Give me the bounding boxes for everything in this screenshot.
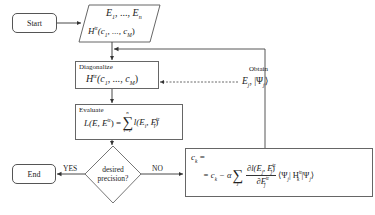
evaluate-node: Evaluate L(E, Etr) = n∑i=1 l(Ei, Etri) <box>75 104 183 140</box>
obtain-eigenpairs: Ej, |Ψj⟩ <box>242 75 268 88</box>
decision-node: desired precision? <box>85 165 141 183</box>
start-node: Start <box>12 13 57 33</box>
input-hamiltonian: Htr(c1, ..., cM) <box>88 25 135 38</box>
yes-label: YES <box>63 164 77 173</box>
obtain-title: Obtain <box>249 65 268 73</box>
decision-line1: desired <box>85 165 141 174</box>
diagonalize-title: Diagonalize <box>79 63 113 71</box>
update-rhs: = ck − α ∑j ∂l(Ej, Etrj) ∂Etrj ⟨Ψj| Htrk… <box>203 163 314 188</box>
decision-line2: precision? <box>85 174 141 183</box>
end-label: End <box>28 170 41 179</box>
diagonalize-hamiltonian: Htr(c1, ..., cM) <box>86 73 138 86</box>
diagonalize-node: Diagonalize Htr(c1, ..., cM) <box>75 61 159 89</box>
update-node: ck = = ck − α ∑j ∂l(Ej, Etrj) ∂Etrj ⟨Ψj|… <box>185 148 373 197</box>
start-label: Start <box>27 19 42 28</box>
evaluate-loss: L(E, Etr) = n∑i=1 l(Ei, Etri) <box>84 111 158 134</box>
no-label: NO <box>152 164 163 173</box>
input-energies: E1, ..., En <box>106 7 142 20</box>
end-node: End <box>12 164 56 184</box>
